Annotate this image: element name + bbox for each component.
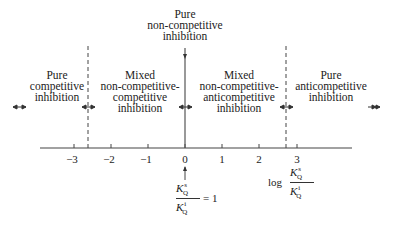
fraction-denominator: KiQ xyxy=(176,201,190,213)
region-mixed-noncompetitive-anticompetitive: Mixed non-competitive- anticompetitive i… xyxy=(196,70,282,114)
arrow-down-icon xyxy=(183,54,187,59)
fraction-numerator: KsQ xyxy=(176,182,191,194)
region-mixed-noncompetitive-competitive: Mixed non-competitive- competitive inhib… xyxy=(97,70,183,114)
label-line: inhibition xyxy=(97,103,183,114)
zero-annotation: KsQ KiQ = 1 xyxy=(176,182,246,222)
log-prefix: log xyxy=(268,176,282,188)
label-line: inhibition xyxy=(196,103,282,114)
tick-label: 0 xyxy=(182,153,188,165)
region-pure-anticompetitive: Pure anticompetitive inhibition xyxy=(292,70,370,103)
tick-label: 1 xyxy=(219,153,225,165)
fraction-denominator: KiQ xyxy=(290,185,304,197)
region-pure-noncompetitive: Pure non-competitive inhibition xyxy=(142,9,228,42)
region-pure-competitive: Pure competitive inhibition xyxy=(22,70,92,103)
tick-label: −1 xyxy=(140,153,152,165)
fraction-numerator: KsQ xyxy=(290,166,305,178)
fraction-bar xyxy=(176,198,200,199)
tick-label: 2 xyxy=(256,153,262,165)
tick-label: 3 xyxy=(294,153,300,165)
label-line: inhibition xyxy=(292,92,370,103)
tick-label: −2 xyxy=(103,153,115,165)
tick-label: −3 xyxy=(66,153,78,165)
axis-label: log KsQ KiQ xyxy=(268,166,338,206)
label-line: inhibition xyxy=(22,92,92,103)
arrow-up-icon xyxy=(183,166,187,171)
label-line: inhibition xyxy=(142,31,228,42)
fraction-bar xyxy=(290,182,314,183)
equals-one: = 1 xyxy=(203,192,217,204)
